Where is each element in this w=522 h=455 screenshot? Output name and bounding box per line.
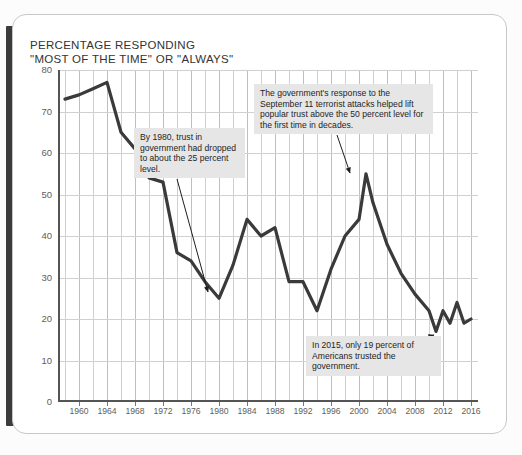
x-axis-tick — [219, 402, 220, 406]
chart-title-line-1: PERCENTAGE RESPONDING — [30, 38, 360, 52]
annotation-sept11: The government's response to the Septemb… — [254, 84, 433, 134]
x-axis-tick — [275, 402, 276, 406]
annotation-1980: By 1980, trust in government had dropped… — [134, 128, 245, 178]
page-background: PERCENTAGE RESPONDING "MOST OF THE TIME"… — [0, 0, 522, 455]
x-axis-tick-label: 1996 — [321, 406, 340, 416]
x-axis-tick-label: 1988 — [265, 406, 284, 416]
x-axis-tick-label: 1984 — [237, 406, 256, 416]
x-axis-tick-label: 2012 — [433, 406, 452, 416]
x-axis-tick — [443, 402, 444, 406]
annotation-2015: In 2015, only 19 percent of Americans tr… — [306, 336, 441, 376]
y-axis-tick-label: 70 — [24, 106, 52, 117]
x-axis-tick-label: 2016 — [461, 406, 480, 416]
y-axis-tick-label: 0 — [24, 396, 52, 407]
x-axis-tick-label: 2008 — [405, 406, 424, 416]
y-axis-tick-label: 40 — [24, 230, 52, 241]
y-axis-tick-label: 50 — [24, 189, 52, 200]
x-axis-tick-label: 2000 — [349, 406, 368, 416]
x-axis-tick — [415, 402, 416, 406]
chart-title: PERCENTAGE RESPONDING "MOST OF THE TIME"… — [30, 38, 360, 66]
y-axis-tick-label: 20 — [24, 313, 52, 324]
y-axis-tick-label: 30 — [24, 272, 52, 283]
x-axis-tick — [247, 402, 248, 406]
x-axis-tick — [387, 402, 388, 406]
x-axis-tick-label: 1992 — [293, 406, 312, 416]
x-axis-tick — [135, 402, 136, 406]
x-axis-tick-label: 1972 — [153, 406, 172, 416]
y-axis-tick-label: 10 — [24, 355, 52, 366]
x-axis-tick — [107, 402, 108, 406]
x-axis-tick-label: 1960 — [69, 406, 88, 416]
x-axis-tick — [471, 402, 472, 406]
x-axis-tick-label: 1980 — [209, 406, 228, 416]
x-axis-tick-label: 1968 — [125, 406, 144, 416]
y-axis-tick-label: 80 — [24, 64, 52, 75]
x-axis-tick — [163, 402, 164, 406]
x-axis-tick-label: 1964 — [97, 406, 116, 416]
x-axis-tick — [359, 402, 360, 406]
chart-title-line-2: "MOST OF THE TIME" OR "ALWAYS" — [30, 52, 360, 66]
x-axis-tick — [303, 402, 304, 406]
x-axis-tick — [191, 402, 192, 406]
x-axis-tick — [79, 402, 80, 406]
x-axis-tick-label: 1976 — [181, 406, 200, 416]
x-axis-tick — [331, 402, 332, 406]
y-axis-tick-label: 60 — [24, 147, 52, 158]
x-axis-tick-label: 2004 — [377, 406, 396, 416]
